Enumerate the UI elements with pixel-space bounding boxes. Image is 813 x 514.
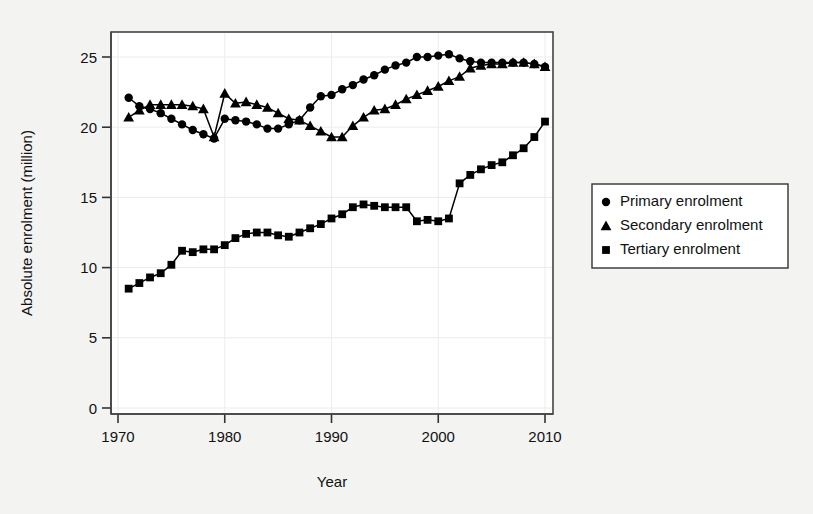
- data-point-square: [392, 203, 400, 211]
- data-point-circle: [381, 65, 389, 73]
- data-point-circle: [370, 71, 378, 79]
- enrolment-line-chart: 0510152025 19701980199020002010 Absolute…: [0, 0, 813, 514]
- legend-item: Primary enrolment: [602, 192, 744, 209]
- data-point-square: [253, 229, 261, 237]
- x-tick-label: 1970: [101, 428, 134, 445]
- x-tick-label: 2000: [422, 428, 455, 445]
- data-point-circle: [263, 124, 271, 132]
- data-point-square: [509, 151, 517, 159]
- y-tick-label: 10: [80, 259, 97, 276]
- data-point-circle: [327, 91, 335, 99]
- data-point-circle: [455, 54, 463, 62]
- chart-legend: Primary enrolmentSecondary enrolmentTert…: [592, 184, 788, 268]
- data-point-square: [146, 274, 154, 282]
- data-point-circle: [317, 92, 325, 100]
- x-tick-label: 2010: [528, 428, 561, 445]
- data-point-circle: [199, 130, 207, 138]
- data-point-square: [445, 215, 453, 223]
- x-axis-title: Year: [317, 473, 347, 490]
- data-point-square: [200, 245, 208, 253]
- data-point-square: [285, 233, 293, 241]
- data-point-square: [413, 217, 421, 225]
- data-point-circle: [338, 85, 346, 93]
- data-point-square: [125, 285, 133, 293]
- y-tick-label: 15: [80, 189, 97, 206]
- legend-item-label: Tertiary enrolment: [620, 240, 741, 257]
- legend-item-label: Primary enrolment: [620, 192, 743, 209]
- data-point-circle: [445, 50, 453, 58]
- data-point-circle: [178, 120, 186, 128]
- legend-entries: Primary enrolmentSecondary enrolmentTert…: [601, 192, 764, 257]
- y-tick-label: 20: [80, 119, 97, 136]
- data-point-square: [135, 279, 143, 287]
- y-tick-label: 25: [80, 49, 97, 66]
- data-point-circle: [602, 198, 610, 206]
- data-point-square: [477, 165, 485, 173]
- data-point-square: [157, 269, 165, 277]
- y-axis-title: Absolute enrolment (million): [18, 130, 35, 316]
- data-point-square: [306, 224, 314, 232]
- y-tick-label: 5: [89, 329, 97, 346]
- data-point-circle: [167, 115, 175, 123]
- data-point-square: [221, 241, 229, 249]
- data-point-square: [370, 202, 378, 210]
- data-point-square: [488, 161, 496, 169]
- data-point-square: [498, 158, 506, 166]
- data-point-square: [274, 231, 282, 239]
- data-point-circle: [231, 116, 239, 124]
- data-point-square: [178, 247, 186, 255]
- data-point-square: [602, 246, 610, 254]
- data-point-square: [424, 216, 432, 224]
- data-point-square: [189, 248, 197, 256]
- data-point-square: [402, 203, 410, 211]
- data-point-circle: [242, 117, 250, 125]
- data-point-circle: [413, 53, 421, 61]
- data-point-square: [349, 203, 357, 211]
- data-point-square: [242, 230, 250, 238]
- data-point-square: [530, 133, 538, 141]
- data-point-circle: [402, 58, 410, 66]
- data-point-circle: [359, 75, 367, 83]
- data-point-square: [328, 215, 336, 223]
- data-point-square: [434, 217, 442, 225]
- data-point-square: [360, 201, 368, 209]
- data-point-square: [232, 234, 240, 242]
- data-point-circle: [124, 94, 132, 102]
- data-point-square: [466, 171, 474, 179]
- x-tick-label: 1990: [315, 428, 348, 445]
- data-point-square: [317, 220, 325, 228]
- data-point-square: [296, 229, 304, 237]
- data-point-circle: [391, 61, 399, 69]
- x-tick-label: 1980: [208, 428, 241, 445]
- data-point-circle: [157, 109, 165, 117]
- legend-item-label: Secondary enrolment: [620, 216, 763, 233]
- data-point-circle: [349, 81, 357, 89]
- data-point-square: [541, 118, 549, 126]
- data-point-circle: [423, 53, 431, 61]
- data-point-circle: [434, 51, 442, 59]
- data-point-square: [520, 144, 528, 152]
- data-point-square: [456, 179, 464, 187]
- data-point-circle: [274, 124, 282, 132]
- chart-figure: 0510152025 19701980199020002010 Absolute…: [0, 0, 813, 514]
- legend-item: Secondary enrolment: [601, 216, 764, 233]
- legend-item: Tertiary enrolment: [602, 240, 741, 257]
- data-point-square: [210, 245, 218, 253]
- data-point-circle: [253, 120, 261, 128]
- data-point-circle: [306, 103, 314, 111]
- data-point-square: [338, 210, 346, 218]
- data-point-circle: [221, 115, 229, 123]
- data-point-circle: [189, 126, 197, 134]
- y-tick-label: 0: [89, 400, 97, 417]
- data-point-square: [381, 203, 389, 211]
- data-point-square: [264, 229, 272, 237]
- data-point-square: [167, 261, 175, 269]
